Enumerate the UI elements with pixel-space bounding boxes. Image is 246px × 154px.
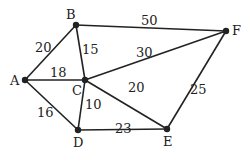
node-label-e: E <box>163 134 173 149</box>
weight-a-c: 18 <box>50 65 67 80</box>
weight-c-d: 10 <box>85 97 102 112</box>
graph-diagram: A B C D E F 20 18 16 15 50 30 20 10 23 2… <box>0 0 246 154</box>
weight-c-f: 30 <box>136 45 153 60</box>
node-c <box>82 77 88 83</box>
node-b <box>73 22 79 28</box>
weight-b-c: 15 <box>82 42 99 57</box>
weight-c-e: 20 <box>128 80 145 95</box>
node-label-a: A <box>9 73 20 88</box>
node-label-b: B <box>66 7 76 22</box>
weight-a-d: 16 <box>37 105 54 120</box>
node-d <box>75 127 81 133</box>
weight-b-f: 50 <box>141 13 158 28</box>
node-f <box>223 28 229 34</box>
node-e <box>164 126 170 132</box>
edge-c-f <box>85 31 226 80</box>
node-label-d: D <box>73 135 83 150</box>
weight-e-f: 25 <box>190 82 207 97</box>
weight-d-e: 23 <box>115 121 132 136</box>
node-label-f: F <box>232 23 241 38</box>
node-a <box>22 77 28 83</box>
node-label-c: C <box>72 83 82 98</box>
edge-e-f <box>167 31 226 129</box>
weight-a-b: 20 <box>35 40 52 55</box>
